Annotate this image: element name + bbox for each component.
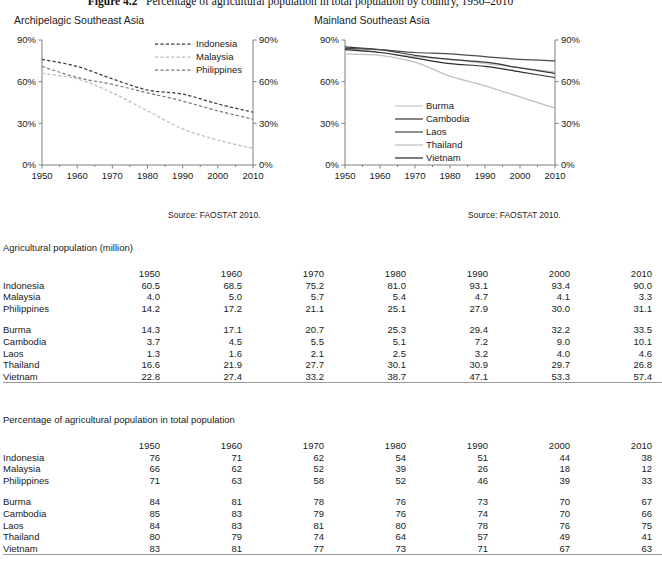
x-axis-tick-label: 1950 [334,170,355,181]
y-axis-tick-label-left: 0% [325,159,339,170]
table-cell-value: 80 [334,520,416,532]
row-country-label: Burma [3,324,88,336]
table-cell-value: 16.6 [88,359,170,371]
row-country-label: Indonesia [3,280,88,292]
x-axis-tick-label: 1970 [404,170,425,181]
row-country-label: Thailand [3,531,88,543]
table-cell-value: 78 [252,496,334,508]
table-agricultural-population: 1950196019701980199020002010Indonesia60.… [3,268,662,383]
table-row: Philippines71635852463933 [3,475,662,487]
table-cell-value: 52 [252,463,334,475]
table-cell-value: 83 [170,520,252,532]
table-cell-value: 5.0 [170,291,252,303]
table-cell-value: 70 [498,508,580,520]
table-cell-value: 52 [334,475,416,487]
table-cell-value: 81 [252,520,334,532]
x-axis-tick-label: 2010 [242,170,263,181]
source-note-right: Source: FAOSTAT 2010. [468,210,561,220]
table-cell-value: 63 [170,475,252,487]
table-cell-value: 81 [170,496,252,508]
row-country-label: Vietnam [3,543,88,555]
table-cell-value: 70 [498,496,580,508]
table-cell-value: 39 [334,463,416,475]
column-header-year: 2010 [580,440,662,452]
panel-title-archipelagic: Archipelagic Southeast Asia [14,14,144,26]
table-cell-value: 18 [498,463,580,475]
x-axis-tick-label: 1960 [369,170,390,181]
table-cell-value: 67 [580,496,662,508]
table-cell-value: 66 [88,463,170,475]
row-country-label: Cambodia [3,508,88,520]
column-header-year: 1950 [88,440,170,452]
table-cell-value: 67 [498,543,580,555]
column-header-year: 1980 [334,268,416,280]
table-cell-value: 44 [498,452,580,464]
legend-label-indonesia: Indonesia [196,38,238,49]
table-cell-value: 2.5 [334,348,416,360]
table-cell-value: 74 [416,508,498,520]
table-cell-value: 5.4 [334,291,416,303]
table-cell-value: 77 [252,543,334,555]
table-cell-value: 25.1 [334,303,416,315]
y-axis-tick-label-left: 60% [17,76,37,87]
table-cell-value: 29.7 [498,359,580,371]
table-cell-value: 49 [498,531,580,543]
table-cell-value: 27.9 [416,303,498,315]
row-country-label: Thailand [3,359,88,371]
table-row: Cambodia85837976747066 [3,508,662,520]
table-cell-value: 53.3 [498,371,580,383]
table-cell-value: 1.3 [88,348,170,360]
series-line-malaysia [42,73,253,148]
y-axis-tick-label-right: 30% [561,118,581,129]
column-header-year: 1980 [334,440,416,452]
y-axis-tick-label-left: 60% [320,76,340,87]
figure-label: Figure 4.2 [88,0,138,7]
table-cell-value: 1.6 [170,348,252,360]
row-country-label: Malaysia [3,463,88,475]
column-header-blank [3,440,88,452]
table-row: Thailand16.621.927.730.130.929.726.8 [3,359,662,371]
table-cell-value: 7.2 [416,336,498,348]
y-axis-tick-label-right: 60% [259,76,279,87]
x-axis-tick-label: 1980 [439,170,460,181]
table-cell-value: 26.8 [580,359,662,371]
table-cell-value: 57.4 [580,371,662,383]
table-cell-value: 4.1 [498,291,580,303]
table-cell-value: 30.9 [416,359,498,371]
x-axis-tick-label: 1950 [31,170,52,181]
table-cell-value: 81 [170,543,252,555]
table-cell-value: 17.1 [170,324,252,336]
row-country-label: Burma [3,496,88,508]
table-cell-value: 9.0 [498,336,580,348]
x-axis-tick-label: 1990 [172,170,193,181]
table-row: Malaysia4.05.05.75.44.74.13.3 [3,291,662,303]
table-cell-value: 2.1 [252,348,334,360]
table-row: Laos1.31.62.12.53.24.04.6 [3,348,662,360]
x-axis-tick-label: 1980 [137,170,158,181]
table-row: Burma84817876737067 [3,496,662,508]
table-cell-value: 32.2 [498,324,580,336]
table-cell-value: 10.1 [580,336,662,348]
column-header-year: 1960 [170,440,252,452]
x-axis-tick-label: 2000 [207,170,228,181]
chart-archipelagic-southeast-asia: 90%90%60%60%30%30%0%0%195019601970198019… [0,28,300,188]
table-cell-value: 5.5 [252,336,334,348]
table-row: Vietnam22.827.433.238.747.153.357.4 [3,371,662,383]
table-header-row: 1950196019701980199020002010 [3,440,662,452]
table-cell-value: 93.1 [416,280,498,292]
table-cell-value: 30.1 [334,359,416,371]
table-row: Malaysia66625239261812 [3,463,662,475]
column-header-year: 1970 [252,268,334,280]
table-row: Vietnam83817773716763 [3,543,662,555]
table-row: Laos84838180787675 [3,520,662,532]
table-cell-value: 66 [580,508,662,520]
column-header-year: 2010 [580,268,662,280]
x-axis-tick-label: 2000 [509,170,530,181]
table-cell-value: 5.1 [334,336,416,348]
y-axis-tick-label-right: 30% [259,118,279,129]
row-country-label: Vietnam [3,371,88,383]
legend-label-philippines: Philippines [196,64,242,75]
table-cell-value: 79 [170,531,252,543]
table-cell-value: 27.4 [170,371,252,383]
table-cell-value: 60.5 [88,280,170,292]
